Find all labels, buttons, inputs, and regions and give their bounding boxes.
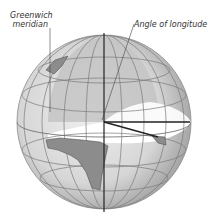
greenwich-label-line2: meridian (10, 20, 48, 29)
globe-longitude-diagram: Greenwich meridian Angle of longitude (0, 0, 208, 223)
angle-of-longitude-label: Angle of longitude (134, 20, 207, 29)
globe-illustration (0, 0, 208, 223)
greenwich-meridian-label: Greenwich meridian (10, 11, 48, 29)
greenwich-label-line1: Greenwich (10, 11, 48, 20)
